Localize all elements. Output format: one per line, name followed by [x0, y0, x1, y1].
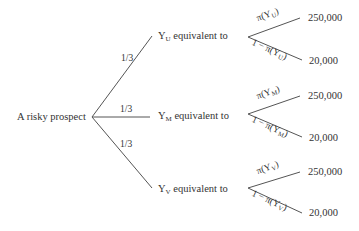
sub-branch-m-high [248, 96, 300, 114]
branch-probability-m: 1/3 [120, 105, 132, 115]
outcome-value-m-high: 250,000 [308, 91, 342, 102]
outcome-value-u-high: 250,000 [308, 13, 342, 24]
node-label-v: YV equivalent to [158, 184, 228, 196]
node-label-u: YU equivalent to [158, 31, 228, 43]
node-label-m: YM equivalent to [158, 111, 229, 123]
root-label: A risky prospect [17, 112, 86, 123]
sub-branch-v-high [248, 172, 300, 188]
outcome-value-u-low: 20,000 [309, 56, 338, 67]
branch-probability-v: 1/3 [120, 140, 132, 150]
branch-probability-u: 1/3 [121, 54, 133, 64]
branch-line-v [92, 117, 152, 188]
outcome-value-v-high: 250,000 [308, 167, 342, 178]
outcome-value-m-low: 20,000 [309, 133, 338, 144]
outcome-value-v-low: 20,000 [309, 208, 338, 219]
sub-branch-u-high [248, 18, 300, 37]
